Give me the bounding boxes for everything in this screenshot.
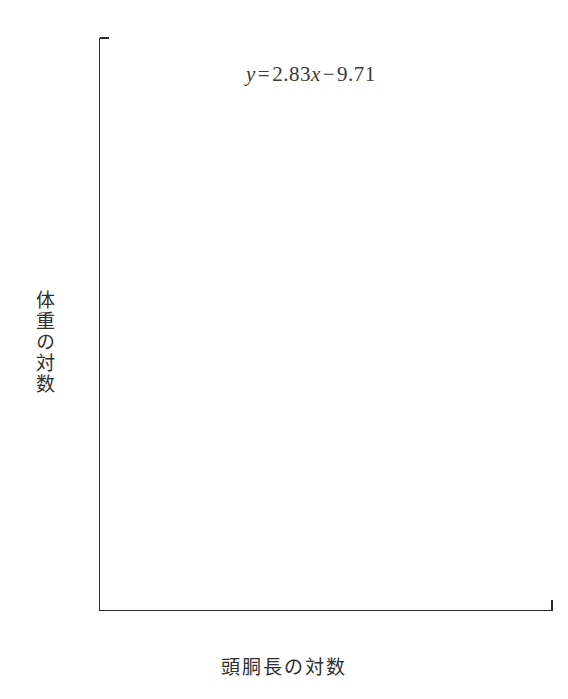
axes-group: [100, 38, 553, 611]
axis-spines: [100, 38, 553, 611]
equation-minus: −: [321, 62, 337, 86]
equation-variable: x: [311, 62, 321, 86]
x-axis-title: 頭胴長の対数: [0, 652, 568, 679]
equation-intercept: 9.71: [337, 62, 376, 86]
equation-lhs: y: [246, 62, 256, 86]
regression-equation-annotation: y=2.83x−9.71: [246, 62, 376, 87]
y-axis-title: 体重の対数: [30, 290, 57, 395]
scatter-plot-figure: 体重の対数 頭胴長の対数 y=2.83x−9.71: [0, 0, 568, 699]
equation-slope: 2.83: [272, 62, 311, 86]
equation-equals: =: [256, 62, 272, 86]
plot-canvas: [0, 0, 568, 699]
